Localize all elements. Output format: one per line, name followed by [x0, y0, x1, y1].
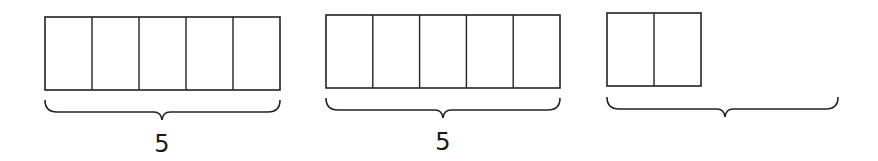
curly-brace-icon [45, 100, 280, 120]
curly-brace-icon [326, 98, 560, 118]
tape-group-1: 5 [45, 17, 280, 158]
group-count-label: 5 [435, 128, 450, 156]
tape-group-3 [607, 13, 838, 117]
tape-box [326, 15, 560, 88]
tape-box [45, 17, 280, 90]
tape-group-2: 5 [326, 15, 560, 156]
curly-brace-icon [607, 97, 838, 117]
tape-diagram: 5 5 [0, 0, 878, 161]
group-count-label: 5 [154, 130, 169, 158]
